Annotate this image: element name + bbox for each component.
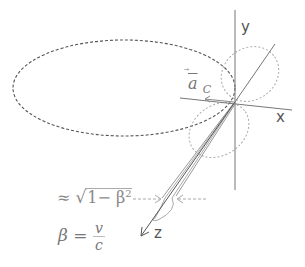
diagram-canvas: y x z ⃗ a C ≈ √1− β2 β = v c [0, 0, 305, 267]
acceleration-arrow [205, 96, 234, 102]
y-axis-label: y [241, 20, 250, 35]
x-axis-label: x [276, 110, 285, 125]
cone-line-1 [162, 104, 233, 198]
acceleration-label: ⃗ a C [188, 76, 211, 95]
z-axis-label: z [154, 226, 162, 241]
cone-width-formula: ≈ √1− β2 [57, 188, 132, 206]
radiation-pattern-figure [0, 0, 305, 267]
lower-dipole-lobe [178, 91, 259, 169]
cone-line-2 [176, 104, 235, 196]
diagonal-axis [235, 44, 275, 102]
beta-fraction: v c [93, 220, 105, 253]
z-axis [141, 102, 235, 236]
beta-definition: β = v c [58, 220, 105, 253]
